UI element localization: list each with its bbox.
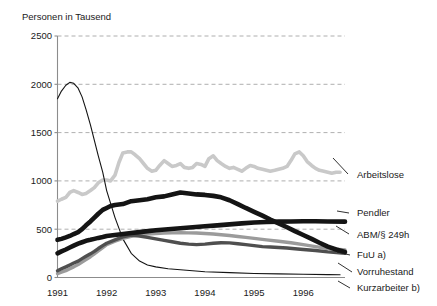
data-series-group bbox=[58, 82, 346, 274]
series-labels-group: ArbeitsloseKurzarbeiter b)ABM/§ 249hPend… bbox=[357, 169, 420, 293]
x-axis-tick-labels: 199119921993199419951996 bbox=[47, 287, 314, 298]
leader-line-pendler bbox=[337, 211, 349, 213]
y-tick-label: 500 bbox=[36, 224, 52, 235]
chart-container: Personen in Tausend 05001000150020002500… bbox=[0, 0, 437, 306]
series-line-fuu bbox=[58, 235, 346, 271]
x-tick-label: 1995 bbox=[244, 287, 265, 298]
series-label-fuu: FuU a) bbox=[357, 249, 386, 260]
y-axis-tick-labels: 05001000150020002500 bbox=[31, 30, 52, 283]
y-tick-label: 2000 bbox=[31, 79, 52, 90]
y-tick-label: 1500 bbox=[31, 127, 52, 138]
x-tick-label: 1993 bbox=[145, 287, 166, 298]
x-tick-label: 1996 bbox=[293, 287, 314, 298]
leader-line-abm bbox=[336, 226, 349, 234]
series-label-abm: ABM/§ 249h bbox=[357, 229, 409, 240]
y-tick-label: 1000 bbox=[31, 175, 52, 186]
series-label-pendler: Pendler bbox=[357, 207, 390, 218]
y-tick-label: 0 bbox=[47, 272, 52, 283]
leader-line-kurzarbeiter bbox=[338, 281, 350, 288]
x-tick-label: 1992 bbox=[96, 287, 117, 298]
x-tick-label: 1991 bbox=[47, 287, 68, 298]
series-label-arbeitslose: Arbeitslose bbox=[357, 169, 404, 180]
leader-line-vorruhestand bbox=[338, 263, 352, 272]
line-chart: Personen in Tausend 05001000150020002500… bbox=[0, 0, 437, 306]
series-label-kurzarbeiter: Kurzarbeiter b) bbox=[357, 282, 420, 293]
y-tick-label: 2500 bbox=[31, 30, 52, 41]
x-tick-label: 1994 bbox=[194, 287, 215, 298]
y-axis-title: Personen in Tausend bbox=[22, 11, 111, 22]
series-label-vorruhestand: Vorruhestand bbox=[357, 266, 414, 277]
